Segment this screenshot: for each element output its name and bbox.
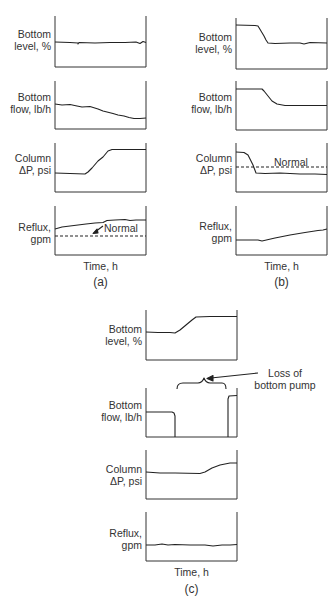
caption-c: (c) (146, 582, 237, 596)
plot-frame-c-reflux (146, 512, 237, 561)
plot-frame-b-reflux (236, 206, 327, 255)
annotation-line: bottom pump (250, 379, 320, 391)
trace-c-level (146, 317, 237, 334)
ylabel-c-reflux: Reflux, gpm (70, 527, 142, 551)
ylabel-line: Reflux, (70, 527, 142, 539)
trace-c-flow (146, 412, 175, 437)
caption-a: (a) (55, 275, 146, 289)
ylabel-b-flow: Bottom flow, lb/h (160, 91, 232, 115)
annotation-loss-of-bottom-pump: Loss of bottom pump (250, 367, 320, 391)
plot-frame-c-level (146, 310, 237, 360)
ylabel-b-dp: Column ΔP, psi (160, 152, 232, 176)
ylabel-line: ΔP, psi (160, 164, 232, 176)
plot-frame-a-dp (55, 143, 146, 192)
trace-c-dp (146, 463, 237, 474)
normal-label-b: Normal (274, 156, 308, 168)
trace-a-flow (55, 104, 146, 119)
ylabel-line: Bottom (160, 91, 232, 103)
ylabel-line: Bottom (0, 28, 51, 40)
ylabel-line: level, % (0, 40, 51, 52)
ylabel-line: Bottom (0, 91, 51, 103)
caption-b: (b) (236, 275, 327, 289)
ylabel-line: flow, lb/h (0, 103, 51, 115)
ylabel-line: flow, lb/h (160, 103, 232, 115)
normal-label-a: Normal (104, 222, 138, 234)
trace-b-level (236, 25, 327, 44)
ylabel-c-dp: Column ΔP, psi (70, 463, 142, 487)
ylabel-b-level: Bottom level, % (160, 31, 232, 55)
ylabel-a-reflux: Reflux, gpm (0, 221, 51, 245)
plot-frame-a-level (55, 16, 146, 67)
ylabel-line: gpm (70, 539, 142, 551)
trace-b-reflux (236, 229, 327, 241)
trace-a-dp (55, 150, 146, 175)
ylabel-line: Bottom (70, 399, 142, 411)
ylabel-line: level, % (160, 43, 232, 55)
ylabel-b-reflux: Reflux, gpm (160, 220, 232, 244)
ylabel-line: ΔP, psi (0, 164, 51, 176)
ylabel-a-level: Bottom level, % (0, 28, 51, 52)
ylabel-line: Column (0, 152, 51, 164)
trace-c-flow-restart (228, 396, 237, 438)
xlabel-c: Time, h (146, 566, 237, 578)
ylabel-line: ΔP, psi (70, 475, 142, 487)
brace-pump-loss (177, 378, 226, 389)
arrowhead-pump-loss (207, 376, 213, 382)
ylabel-c-flow: Bottom flow, lb/h (70, 399, 142, 423)
trace-a-level (55, 42, 146, 45)
ylabel-c-level: Bottom level, % (70, 323, 142, 347)
ylabel-line: gpm (160, 232, 232, 244)
trace-b-flow (236, 89, 327, 106)
arrowhead-a-normal (93, 229, 98, 234)
plot-frame-c-dp (146, 450, 237, 499)
ylabel-a-flow: Bottom flow, lb/h (0, 91, 51, 115)
ylabel-line: Reflux, (160, 220, 232, 232)
trace-c-reflux (146, 544, 237, 546)
ylabel-line: level, % (70, 335, 142, 347)
ylabel-line: Bottom (160, 31, 232, 43)
xlabel-a: Time, h (55, 260, 146, 272)
ylabel-line: gpm (0, 233, 51, 245)
ylabel-line: Column (160, 152, 232, 164)
ylabel-line: Column (70, 463, 142, 475)
ylabel-line: flow, lb/h (70, 411, 142, 423)
annotation-line: Loss of (250, 367, 320, 379)
ylabel-line: Reflux, (0, 221, 51, 233)
xlabel-b: Time, h (236, 260, 327, 272)
ylabel-line: Bottom (70, 323, 142, 335)
ylabel-a-dp: Column ΔP, psi (0, 152, 51, 176)
